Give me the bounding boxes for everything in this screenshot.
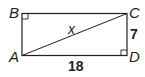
vertex-label-a: A [8,48,19,65]
vertex-label-d: D [129,48,140,65]
right-angle-mark-d [121,50,127,56]
side-label-ad: 18 [68,58,84,74]
diagonal-label-x: x [67,21,76,37]
vertex-label-c: C [129,4,140,21]
vertex-label-b: B [9,4,19,21]
right-angle-mark-b [22,14,28,20]
rectangle-diagram: B C A D x 7 18 [0,0,145,77]
side-label-cd: 7 [130,26,138,42]
